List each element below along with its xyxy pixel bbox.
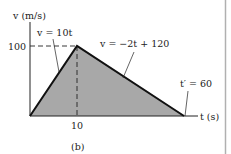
leader-ann3	[185, 91, 188, 116]
annotation-end: t′ = 60	[180, 78, 212, 89]
y-tick-100: 100	[8, 41, 26, 52]
leader-ann2	[123, 52, 134, 78]
x-tick-10: 10	[71, 120, 83, 131]
caption: (b)	[71, 141, 85, 152]
leader-ann1	[53, 39, 59, 72]
annotation-rise: v = 10t	[36, 27, 72, 38]
annotation-fall: v = −2t + 120	[99, 38, 169, 49]
velocity-time-chart: v (m/s) 100 10 t (s) v = 10t v = −2t + 1…	[0, 0, 231, 154]
x-axis-label: t (s)	[200, 111, 219, 122]
y-axis-label: v (m/s)	[12, 10, 46, 21]
